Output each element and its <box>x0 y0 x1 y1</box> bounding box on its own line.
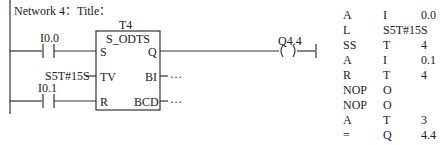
pin-q: Q <box>148 46 157 58</box>
bi-output: … <box>170 68 182 80</box>
contact-reset-label: I0.1 <box>38 82 57 94</box>
timer-id: T4 <box>119 19 132 31</box>
block-type: S_ODTS <box>106 33 150 45</box>
pin-s: S <box>100 46 107 58</box>
bcd-output: … <box>170 93 182 105</box>
tv-value: S5T#15S <box>45 70 90 82</box>
coil-label: Q4.4 <box>278 35 302 47</box>
contact-set-label: I0.0 <box>40 32 59 44</box>
network-title: Network 4：Title： <box>14 5 111 17</box>
pin-r: R <box>100 96 108 108</box>
pin-bi: BI <box>145 71 157 83</box>
pin-tv: TV <box>100 71 116 83</box>
pin-bcd: BCD <box>134 96 159 108</box>
